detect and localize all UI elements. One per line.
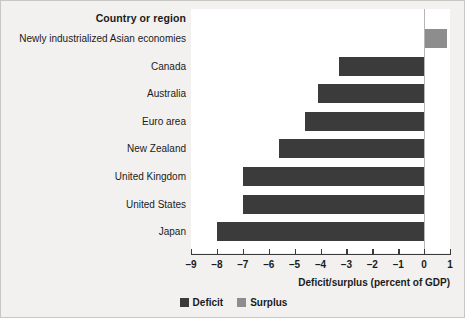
x-axis-tick-label: 1: [438, 259, 462, 270]
legend-item: Deficit: [180, 297, 224, 308]
x-axis-tick-label: –5: [283, 259, 307, 270]
x-axis-tick-label: –2: [360, 259, 384, 270]
x-axis-tick: [321, 249, 322, 255]
x-axis-tick-label: 0: [412, 259, 436, 270]
x-axis-tick-label: –4: [309, 259, 333, 270]
legend-swatch-icon: [237, 298, 246, 307]
bar-deficit: [243, 167, 424, 186]
bar-deficit: [305, 112, 424, 131]
x-axis-tick-label: –8: [205, 259, 229, 270]
bar-deficit: [279, 139, 424, 158]
legend-item: Surplus: [237, 297, 287, 308]
x-axis-tick: [346, 249, 347, 255]
x-axis-tick: [450, 249, 451, 255]
bar-deficit: [243, 195, 424, 214]
x-axis-tick: [424, 249, 425, 255]
x-axis-tick: [191, 249, 192, 255]
bar-surplus: [424, 29, 447, 48]
bar-deficit: [339, 57, 424, 76]
bar-deficit: [217, 222, 424, 241]
bars-area: [1, 1, 465, 253]
x-axis-tick-label: –6: [257, 259, 281, 270]
x-axis-tick: [295, 249, 296, 255]
chart-legend: DeficitSurplus: [1, 297, 465, 308]
x-axis-title: Deficit/surplus (percent of GDP): [191, 277, 450, 288]
x-axis-tick-label: –9: [179, 259, 203, 270]
x-axis-tick: [217, 249, 218, 255]
x-axis-tick-label: –7: [231, 259, 255, 270]
x-axis-tick: [243, 249, 244, 255]
x-axis-tick-label: –3: [334, 259, 358, 270]
legend-label: Deficit: [193, 297, 224, 308]
legend-swatch-icon: [180, 298, 189, 307]
x-axis-tick: [372, 249, 373, 255]
zero-reference-line: [424, 9, 425, 254]
x-axis-tick-label: –1: [386, 259, 410, 270]
legend-label: Surplus: [250, 297, 287, 308]
bar-deficit: [318, 84, 424, 103]
chart-figure: Country or region Newly industrialized A…: [0, 0, 465, 318]
x-axis-tick: [398, 249, 399, 255]
x-axis-tick: [269, 249, 270, 255]
